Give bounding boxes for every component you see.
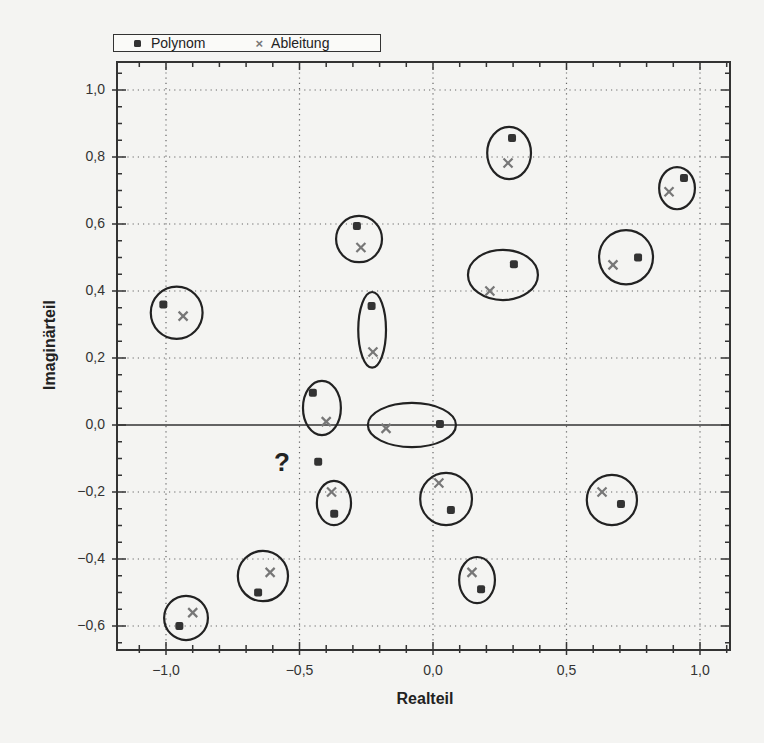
ableitung-point — [327, 488, 336, 497]
polynom-point — [680, 174, 688, 182]
polynom-point — [368, 302, 376, 310]
ableitung-point — [598, 488, 607, 497]
plot-frame — [117, 62, 730, 650]
y-tick-label: 1,0 — [86, 81, 105, 97]
polynom-point — [159, 300, 167, 308]
polynom-point — [314, 458, 322, 466]
legend-item-ableitung: × Ableitung — [205, 35, 329, 51]
polynom-points — [159, 134, 688, 630]
polynom-point — [309, 389, 317, 397]
y-tick-label: 0,6 — [86, 215, 105, 231]
polynom-point — [508, 134, 516, 142]
x-marker-icon: × — [255, 36, 263, 51]
y-tick-label: 0,4 — [86, 282, 105, 298]
scatter-plot — [0, 0, 764, 743]
y-tick-label: 0,8 — [86, 148, 105, 164]
ableitung-point — [665, 187, 674, 196]
ableitung-point — [434, 478, 443, 487]
pair-ellipse — [587, 475, 637, 525]
pair-ellipse — [303, 381, 341, 435]
y-tick-label: −0,4 — [77, 550, 105, 566]
pair-ellipse — [459, 557, 495, 603]
x-tick-label: 0,0 — [423, 662, 442, 678]
x-tick-label: −1,0 — [152, 662, 180, 678]
x-tick-label: −0,5 — [286, 662, 314, 678]
pair-ellipse — [151, 287, 203, 339]
ableitung-point — [179, 312, 188, 321]
ableitung-point — [356, 243, 365, 252]
pair-ellipse — [317, 481, 351, 525]
polynom-point — [447, 506, 455, 514]
y-tick-label: 0,0 — [86, 416, 105, 432]
polynom-point — [254, 589, 262, 597]
legend: Polynom × Ableitung — [113, 34, 381, 52]
ableitung-point — [467, 568, 476, 577]
legend-item-polynom: Polynom — [114, 35, 205, 51]
grid-lines — [117, 62, 730, 650]
x-tick-label: 1,0 — [690, 662, 709, 678]
pair-ellipse — [599, 230, 653, 284]
polynom-point — [353, 222, 361, 230]
polynom-point — [436, 420, 444, 428]
ableitung-point — [266, 568, 275, 577]
ableitung-points — [179, 159, 674, 618]
y-tick-label: 0,2 — [86, 349, 105, 365]
y-tick-label: −0,2 — [77, 483, 105, 499]
x-tick-label: 0,5 — [557, 662, 576, 678]
question-mark-annotation: ? — [274, 447, 290, 478]
polynom-point — [477, 585, 485, 593]
x-axis-label: Realteil — [397, 690, 454, 708]
polynom-point — [175, 622, 183, 630]
ableitung-point — [608, 260, 617, 269]
ableitung-point — [188, 608, 197, 617]
pair-ellipse — [420, 473, 472, 525]
legend-label-ableitung: Ableitung — [271, 35, 329, 51]
y-tick-label: −0,6 — [77, 617, 105, 633]
pair-ellipse — [468, 250, 538, 300]
polynom-point — [330, 510, 338, 518]
polynom-point — [617, 500, 625, 508]
pair-ellipses — [151, 127, 695, 640]
pair-ellipse — [164, 596, 208, 640]
dot-marker-icon — [134, 40, 141, 47]
ableitung-point — [368, 347, 377, 356]
polynom-point — [634, 254, 642, 262]
ableitung-point — [504, 159, 513, 168]
legend-label-polynom: Polynom — [151, 35, 205, 51]
y-axis-label: Imaginärteil — [41, 300, 59, 390]
polynom-point — [510, 260, 518, 268]
